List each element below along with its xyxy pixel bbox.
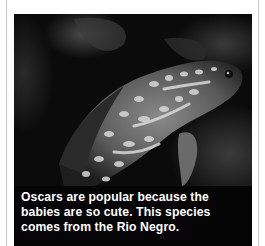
background-leaf	[74, 18, 126, 51]
oscar-fish-photo	[14, 14, 252, 186]
fish-eye	[225, 70, 233, 78]
page-rule-left	[6, 0, 7, 246]
figure-caption: Oscars are popular because the babies ar…	[21, 190, 249, 235]
fish-pectoral-fin	[178, 132, 197, 186]
background-leaf	[164, 38, 206, 61]
page-rule-right	[258, 0, 259, 246]
fish-illustration	[14, 14, 252, 186]
figure-panel: Oscars are popular because the babies ar…	[14, 14, 252, 246]
